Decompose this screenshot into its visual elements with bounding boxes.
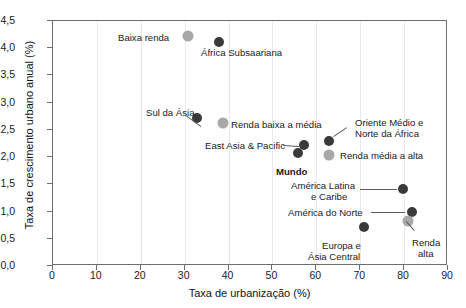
leader-america-do-norte [371,212,405,213]
label-renda-media-a-alta: Renda média a alta [340,150,423,161]
y-tick-mark [47,20,52,21]
scatter-chart: Taxa de urbanização (%) Taxa de crescime… [0,0,466,308]
label-america-latina-line1: América Latina [291,180,355,191]
y-tick-mark [47,211,52,212]
y-tick-label: 2,5 [0,124,15,135]
data-point [324,136,334,146]
x-tick-label: 10 [90,270,102,281]
y-tick-mark [47,156,52,157]
label-renda-baixa-a-media: Renda baixa a média [231,119,322,130]
x-gridline [404,21,405,264]
label-america-latina-line2: e Caribe [311,191,347,202]
label-oriente-medio-line1: Oriente Médio e [355,117,423,128]
data-point [293,148,303,158]
y-tick-label: 4,0 [0,42,15,53]
y-tick-label: 4,5 [0,15,15,26]
data-point [323,150,334,161]
y-tick-label: 2,0 [0,151,15,162]
y-tick-label: 1,0 [0,206,15,217]
y-tick-mark [47,129,52,130]
y-tick-label: 0,0 [0,260,15,271]
label-oriente-medio-line2: Norte da África [355,128,419,139]
y-tick-label: 3,5 [0,69,15,80]
x-tick-label: 40 [222,270,234,281]
y-tick-mark [47,74,52,75]
data-point [218,118,229,129]
label-america-do-norte: América do Norte [288,207,363,218]
x-tick-label: 0 [49,270,55,281]
x-tick-label: 30 [178,270,190,281]
x-gridline [185,21,186,264]
y-tick-mark [47,47,52,48]
label-europa-asia-line1: Europa e [322,240,361,251]
label-europa-asia-line2: Ásia Central [308,251,360,262]
data-point [183,31,194,42]
y-tick-label: 0,5 [0,233,15,244]
x-tick-label: 20 [134,270,146,281]
y-tick-mark [47,183,52,184]
leader-america-latina [360,189,397,190]
x-gridline [141,21,142,264]
x-tick-label: 50 [266,270,278,281]
data-point [214,37,224,47]
data-point [359,222,369,232]
x-tick-label: 70 [353,270,365,281]
x-gridline [316,21,317,264]
label-renda-alta-line1: Renda [412,237,440,248]
label-baixa-renda: Baixa renda [118,32,169,43]
label-renda-alta-line2: alta [418,248,433,259]
x-gridline [97,21,98,264]
y-tick-mark [47,265,52,266]
x-axis-title: Taxa de urbanização (%) [52,287,447,299]
label-east-asia-pacific: East Asia & Pacific [205,140,285,151]
x-tick-label: 90 [441,270,453,281]
y-axis-title: Taxa de crescimento urbano anual (%) [23,10,35,260]
y-tick-mark [47,102,52,103]
x-tick-label: 80 [397,270,409,281]
data-point [398,184,408,194]
x-tick-label: 60 [309,270,321,281]
y-tick-label: 3,0 [0,97,15,108]
y-tick-mark [47,238,52,239]
label-africa-subsaariana: África Subsaariana [201,47,282,58]
y-tick-label: 1,5 [0,178,15,189]
label-mundo: Mundo [276,166,307,177]
